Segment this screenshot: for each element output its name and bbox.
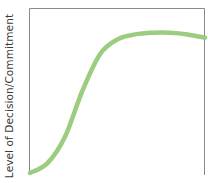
chart-plot: [0, 0, 208, 183]
decision-curve: [30, 33, 205, 173]
